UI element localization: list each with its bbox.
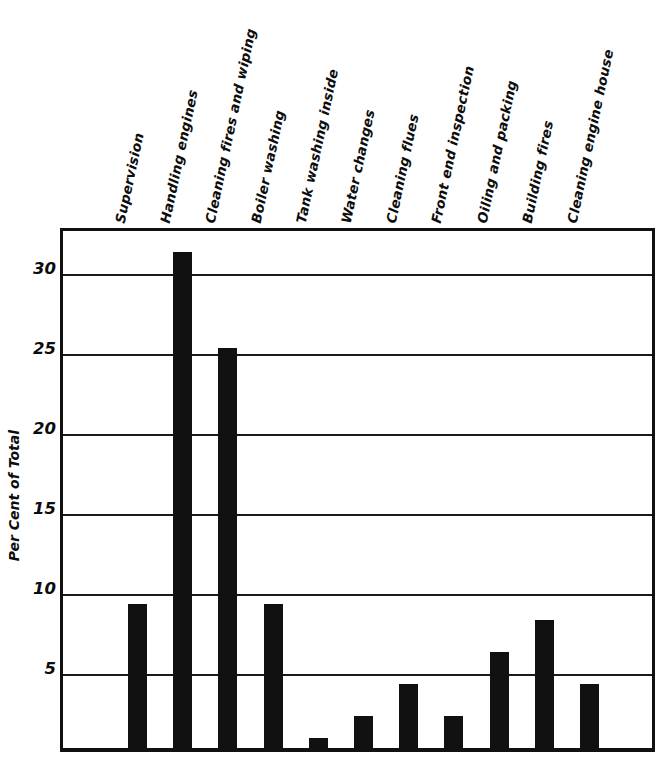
category-label-group: SupervisionHandling enginesCleaning fire… xyxy=(0,0,666,228)
plot-area xyxy=(60,228,655,752)
gridline xyxy=(63,674,652,676)
bar xyxy=(128,604,147,748)
category-label: Cleaning fires and wiping xyxy=(204,27,259,224)
category-label: Water changes xyxy=(340,108,377,224)
bar xyxy=(264,604,283,748)
gridline xyxy=(63,354,652,356)
bar xyxy=(218,348,237,748)
category-label: Cleaning flues xyxy=(385,112,421,224)
category-label: Building fires xyxy=(521,119,556,224)
category-label: Tank washing inside xyxy=(295,67,341,224)
gridline xyxy=(63,514,652,516)
category-label: Oiling and packing xyxy=(475,79,518,224)
bar xyxy=(580,684,599,748)
category-label: Front end inspection xyxy=(430,64,477,224)
category-label: Boiler washing xyxy=(249,108,286,224)
category-label: Cleaning engine house xyxy=(566,48,616,224)
bar xyxy=(399,684,418,748)
y-axis-tick-label: 30 xyxy=(14,261,56,278)
gridline xyxy=(63,434,652,436)
gridline xyxy=(63,274,652,276)
bar xyxy=(309,738,328,748)
bar xyxy=(173,252,192,748)
category-label: Handling engines xyxy=(159,88,200,224)
bar xyxy=(444,716,463,748)
bar xyxy=(354,716,373,748)
y-axis-title: Per Cent of Total xyxy=(6,430,22,561)
category-label: Supervision xyxy=(114,131,146,224)
y-axis-tick-label: 10 xyxy=(14,581,56,598)
y-axis-tick-label: 5 xyxy=(14,661,56,678)
chart-page: SupervisionHandling enginesCleaning fire… xyxy=(0,0,666,768)
bar xyxy=(490,652,509,748)
bar xyxy=(535,620,554,748)
gridline xyxy=(63,594,652,596)
y-axis-tick-label: 25 xyxy=(14,341,56,358)
